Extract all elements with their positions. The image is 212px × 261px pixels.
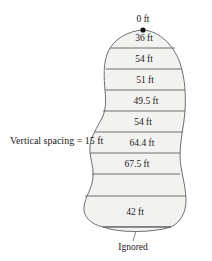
band-label-1: 36 ft — [135, 33, 153, 43]
band-label-8: 42 ft — [126, 207, 144, 217]
apex-point-marker — [140, 27, 145, 32]
ignored-caption: Ignored — [118, 242, 148, 252]
band-label-7: 67.5 ft — [125, 159, 150, 169]
band-label-2: 54 ft — [135, 54, 153, 64]
band-label-4: 49.5 ft — [134, 96, 159, 106]
apex-label: 0 ft — [137, 14, 150, 24]
band-label-5: 54 ft — [134, 117, 152, 127]
band-label-6: 64.4 ft — [130, 138, 155, 148]
ignored-leader-line — [133, 231, 136, 241]
band-label-3: 51 ft — [136, 75, 154, 85]
ignored-region — [103, 227, 171, 232]
cross-section-diagram — [0, 0, 212, 261]
vertical-spacing-annotation: Vertical spacing = 15 ft — [10, 135, 103, 146]
